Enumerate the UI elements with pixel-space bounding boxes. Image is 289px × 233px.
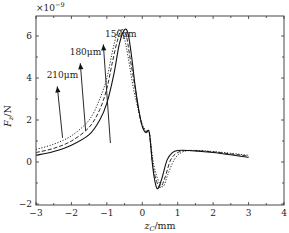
- series-180μm: [36, 30, 249, 188]
- y-scale-multiplier: ×10−9: [36, 1, 65, 13]
- force-vs-position-chart: 150μm180μm210μm −3−2−101234−20246 ×10−9 …: [0, 0, 289, 233]
- series-annotation-label: 180μm: [70, 47, 102, 57]
- x-tick-label: 3: [246, 208, 252, 218]
- x-tick-label: 1: [175, 208, 181, 218]
- tick-layer: −3−2−101234−20246: [19, 16, 287, 218]
- series-annotation-label: 150μm: [105, 29, 137, 39]
- axes-frame: [36, 16, 284, 205]
- y-tick-label: 0: [26, 157, 32, 167]
- series-210μm: [36, 30, 249, 187]
- y-tick-label: 6: [26, 31, 32, 41]
- y-tick-label: 4: [26, 73, 32, 83]
- y-tick-label: −2: [19, 199, 32, 209]
- annotation-arrow-line: [57, 86, 62, 137]
- x-tick-label: −3: [29, 208, 43, 218]
- x-axis-label: zC/mm: [143, 220, 175, 233]
- y-tick-label: 2: [26, 115, 32, 125]
- y-axis-label: Fz/N: [2, 105, 15, 128]
- annotation-arrow-line: [80, 63, 85, 130]
- x-tick-label: 4: [281, 208, 287, 218]
- x-tick-label: −1: [100, 208, 113, 218]
- arrowhead-icon: [78, 63, 83, 69]
- series-annotation-label: 210μm: [47, 70, 79, 80]
- x-tick-label: 2: [210, 208, 216, 218]
- annotation-layer: 150μm180μm210μm: [47, 29, 137, 143]
- series-layer: [36, 29, 249, 189]
- arrowhead-icon: [55, 86, 60, 92]
- series-150μm: [36, 29, 249, 189]
- arrowhead-icon: [101, 44, 106, 50]
- x-tick-label: −2: [65, 208, 78, 218]
- x-tick-label: 0: [139, 208, 145, 218]
